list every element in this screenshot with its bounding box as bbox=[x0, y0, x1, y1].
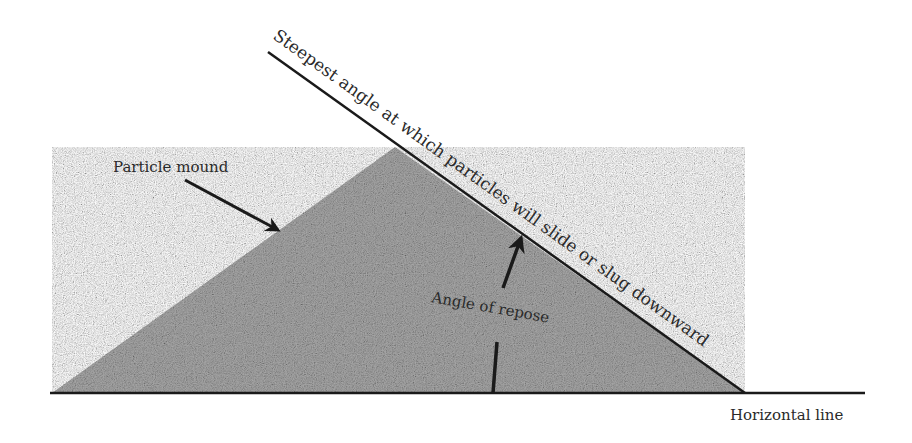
particle-mound bbox=[52, 147, 745, 393]
particle-mound-arrow bbox=[185, 180, 278, 230]
angle-of-repose-diagram: Steepest angle at which particles will s… bbox=[0, 0, 912, 443]
horizontal-line-label: Horizontal line bbox=[730, 406, 843, 424]
particle-mound-label: Particle mound bbox=[113, 158, 229, 176]
